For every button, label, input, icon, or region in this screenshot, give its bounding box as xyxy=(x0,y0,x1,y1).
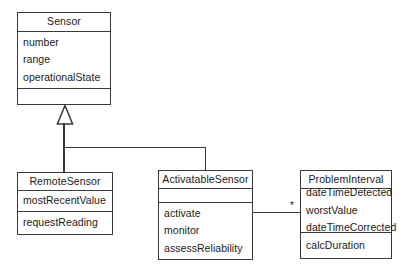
class-box-remote-sensor[interactable]: RemoteSensor mostRecentValue requestRead… xyxy=(17,172,113,235)
problem-interval-attributes-compartment: dateTimeDetected worstValue dateTimeCorr… xyxy=(301,189,391,233)
sensor-operations-compartment xyxy=(18,89,110,104)
generalization-branch-horizontal xyxy=(63,147,206,148)
sensor-attribute: number xyxy=(18,34,110,52)
association-line-problem-interval xyxy=(252,212,301,213)
problem-interval-attribute: dateTimeDetected xyxy=(301,184,391,202)
activatable-sensor-name-compartment: ActivatableSensor xyxy=(159,171,252,189)
remote-sensor-attributes-compartment: mostRecentValue xyxy=(18,191,112,212)
remote-sensor-name-compartment: RemoteSensor xyxy=(18,173,112,191)
activatable-sensor-operation: activate xyxy=(159,205,252,223)
class-box-sensor[interactable]: Sensor number range operationalState xyxy=(17,12,111,105)
activatable-sensor-attributes-compartment xyxy=(159,189,252,203)
class-box-activatable-sensor[interactable]: ActivatableSensor activate monitor asses… xyxy=(158,170,253,260)
sensor-attribute: range xyxy=(18,51,110,69)
remote-sensor-operations-compartment: requestReading xyxy=(18,212,112,234)
generalization-arrowhead-icon xyxy=(56,104,74,126)
activatable-sensor-operation: monitor xyxy=(159,222,252,240)
sensor-attribute: operationalState xyxy=(18,69,110,87)
sensor-name-compartment: Sensor xyxy=(18,13,110,32)
activatable-sensor-operation: assessReliability xyxy=(159,240,252,258)
uml-class-diagram: * Sensor number range operationalState R… xyxy=(0,0,407,276)
generalization-drop-activatable-sensor xyxy=(205,147,206,171)
remote-sensor-class-name: RemoteSensor xyxy=(18,173,112,191)
remote-sensor-operation: requestReading xyxy=(18,214,112,232)
problem-interval-operation: calcDuration xyxy=(301,237,391,255)
problem-interval-operations-compartment: calcDuration xyxy=(301,233,391,258)
activatable-sensor-operations-compartment: activate monitor assessReliability xyxy=(159,203,252,260)
generalization-drop-remote-sensor xyxy=(63,147,64,173)
sensor-class-name: Sensor xyxy=(18,13,110,31)
association-multiplicity-problem-interval: * xyxy=(290,201,294,211)
generalization-stem-vertical xyxy=(63,123,64,148)
sensor-attributes-compartment: number range operationalState xyxy=(18,32,110,89)
class-box-problem-interval[interactable]: ProblemInterval dateTimeDetected worstVa… xyxy=(300,170,392,259)
remote-sensor-attribute: mostRecentValue xyxy=(18,192,112,210)
activatable-sensor-class-name: ActivatableSensor xyxy=(159,171,252,189)
problem-interval-attribute: worstValue xyxy=(301,202,391,220)
